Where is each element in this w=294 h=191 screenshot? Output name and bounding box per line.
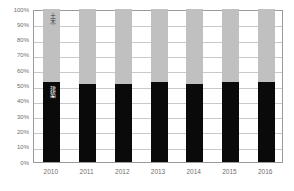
bar-segment-civil bbox=[115, 9, 132, 84]
bar-segment-civil: 土木 bbox=[43, 9, 60, 82]
bar-segment-building bbox=[79, 84, 96, 162]
y-axis-tick-label: 50% bbox=[2, 83, 29, 90]
y-axis-tick-label: 60% bbox=[2, 68, 29, 75]
x-axis-tick-label: 2012 bbox=[105, 168, 139, 176]
y-axis-tick-label: 30% bbox=[2, 114, 29, 121]
y-axis-tick-label: 100% bbox=[2, 7, 29, 14]
y-axis-tick-label: 70% bbox=[2, 52, 29, 59]
bar-segment-civil bbox=[79, 9, 96, 84]
bar-annotation-civil: 土木 bbox=[49, 13, 56, 25]
x-axis-tick-label: 2015 bbox=[212, 168, 246, 176]
y-axis-tick-label: 40% bbox=[2, 98, 29, 105]
y-axis-tick-label: 90% bbox=[2, 22, 29, 29]
bar-column bbox=[151, 9, 168, 162]
bar-column bbox=[222, 9, 239, 162]
y-axis-tick-label: 10% bbox=[2, 144, 29, 151]
bar-segment-building bbox=[151, 82, 168, 162]
y-axis-tick-label: 80% bbox=[2, 37, 29, 44]
bar-segment-building: 建築 bbox=[43, 82, 60, 162]
bar-segment-building bbox=[258, 82, 275, 162]
y-axis-tick-label: 0% bbox=[2, 160, 29, 167]
bar-annotation-building: 建築 bbox=[49, 86, 56, 98]
x-axis-tick-label: 2013 bbox=[141, 168, 175, 176]
x-axis-tick-label: 2011 bbox=[70, 168, 104, 176]
bar-segment-civil bbox=[151, 9, 168, 82]
x-axis-tick-label: 2016 bbox=[248, 168, 282, 176]
bar-column bbox=[79, 9, 96, 162]
stacked-bar-chart: 100% 90% 80% 70% 60% 50% 40% 30% 20% 10%… bbox=[0, 0, 294, 191]
plot-area: 土木建築 bbox=[33, 10, 283, 163]
bar-column: 土木建築 bbox=[43, 9, 60, 162]
bar-segment-building bbox=[115, 84, 132, 162]
y-axis-tick-label: 20% bbox=[2, 129, 29, 136]
bar-segment-civil bbox=[222, 9, 239, 82]
bar-segment-civil bbox=[258, 9, 275, 82]
bar-column bbox=[115, 9, 132, 162]
bar-column bbox=[258, 9, 275, 162]
bar-segment-building bbox=[222, 82, 239, 162]
bar-column bbox=[186, 9, 203, 162]
bar-segment-building bbox=[186, 84, 203, 162]
x-axis-tick-label: 2014 bbox=[177, 168, 211, 176]
bar-segment-civil bbox=[186, 9, 203, 84]
x-axis-tick-label: 2010 bbox=[34, 168, 68, 176]
